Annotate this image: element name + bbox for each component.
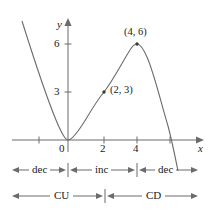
local-maximum-label: (4, 6) — [124, 27, 147, 38]
y-axis-arrowhead — [64, 18, 71, 26]
interval-label-dec-right: dec — [155, 164, 176, 175]
inc-right-arrowhead — [128, 167, 135, 173]
x-tick-label-4: 4 — [133, 143, 139, 154]
calculus-curve-figure: y x 0 2 4 6 3 (2, 3) (4, 6) dec inc dec … — [0, 0, 212, 213]
y-tick-label-3: 3 — [54, 86, 60, 97]
interval-label-inc: inc — [92, 164, 111, 175]
figure-canvas — [0, 0, 212, 213]
dec-right-arrowhead — [191, 167, 198, 173]
origin-label: 0 — [59, 143, 65, 154]
dec-right-left-arrowhead — [139, 167, 146, 173]
inc-left-arrowhead — [70, 167, 77, 173]
concavity-label-cd: CD — [142, 190, 165, 201]
inflection-point-label: (2, 3) — [110, 85, 133, 96]
x-tick-label-2: 2 — [100, 143, 106, 154]
interval-label-dec-left: dec — [29, 164, 50, 175]
local-maximum-dot — [135, 42, 138, 45]
cu-left-arrowhead — [12, 193, 19, 199]
cu-right-arrowhead — [96, 193, 103, 199]
dec-left-right-arrowhead — [59, 167, 66, 173]
dec-left-arrowhead — [12, 167, 19, 173]
concavity-label-cu: CU — [50, 190, 73, 201]
inflection-point-dot — [102, 90, 105, 93]
x-axis-label: x — [198, 143, 203, 154]
y-axis-label: y — [57, 19, 62, 30]
cd-left-arrowhead — [107, 193, 114, 199]
cd-right-arrowhead — [191, 193, 198, 199]
y-tick-label-6: 6 — [54, 38, 60, 49]
